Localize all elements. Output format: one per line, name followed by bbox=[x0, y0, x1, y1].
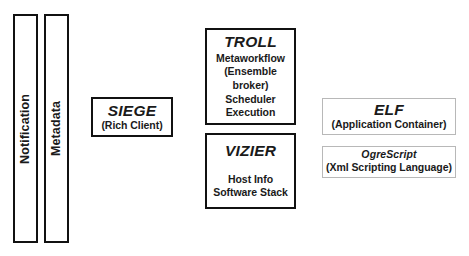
node-notification[interactable]: Notification bbox=[13, 14, 38, 243]
node-vizier-line: Software Stack bbox=[213, 186, 288, 200]
node-elf[interactable]: ELF (Application Container) bbox=[322, 98, 456, 135]
node-troll-line: (Ensemble bbox=[224, 65, 277, 79]
node-vizier-line: Host Info bbox=[228, 173, 273, 187]
node-troll-line: Scheduler bbox=[225, 93, 275, 107]
node-vizier[interactable]: VIZIER Host Info Software Stack bbox=[205, 133, 296, 209]
node-notification-label: Notification bbox=[19, 94, 32, 164]
node-troll-line: broker) bbox=[233, 79, 269, 93]
node-elf-title: ELF bbox=[374, 101, 404, 118]
node-troll-title: TROLL bbox=[224, 33, 277, 50]
node-elf-subtitle: (Application Container) bbox=[332, 118, 447, 131]
node-vizier-lines: Host Info Software Stack bbox=[213, 173, 288, 200]
node-vizier-title: VIZIER bbox=[225, 142, 276, 159]
node-metadata-label: Metadata bbox=[50, 101, 63, 156]
node-troll-line: Metaworkflow bbox=[216, 52, 285, 66]
node-troll-lines: Metaworkflow (Ensemble broker) Scheduler… bbox=[216, 52, 285, 120]
node-siege-title: SIEGE bbox=[108, 102, 156, 119]
diagram-canvas: Notification Metadata SIEGE (Rich Client… bbox=[0, 0, 469, 256]
node-troll[interactable]: TROLL Metaworkflow (Ensemble broker) Sch… bbox=[205, 28, 296, 125]
node-siege-subtitle: (Rich Client) bbox=[101, 119, 162, 132]
node-ogrescript-title: OgreScript bbox=[361, 149, 416, 161]
node-ogrescript-subtitle: (Xml Scripting Language) bbox=[326, 161, 452, 174]
node-metadata[interactable]: Metadata bbox=[44, 14, 69, 243]
node-siege[interactable]: SIEGE (Rich Client) bbox=[91, 97, 173, 137]
node-troll-line: Execution bbox=[226, 106, 276, 120]
node-ogrescript[interactable]: OgreScript (Xml Scripting Language) bbox=[322, 146, 456, 178]
